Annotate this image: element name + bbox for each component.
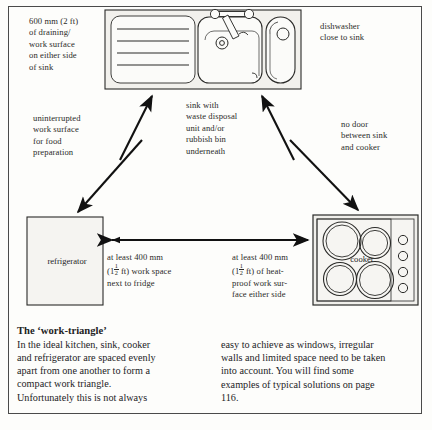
callout-line: between sink (341, 130, 425, 141)
article-line: walls and limited space need to be taken (221, 351, 421, 364)
refrigerator-label: refrigerator (37, 256, 97, 266)
callout-line: at least 400 mm (107, 252, 201, 263)
callout-line: face either side (232, 289, 324, 300)
callout-line: of draining/ (29, 27, 103, 38)
callout-line: sink with (186, 100, 278, 111)
arrow-fridge-to-cooker-span (112, 237, 308, 244)
callout-line: waste disposal (186, 111, 278, 122)
callout-line: unit and/or (186, 123, 278, 134)
callout-frac-pre: (1 (107, 266, 114, 276)
callout-line: (112 ft) of heat- (232, 263, 324, 277)
callout-line: next to fridge (107, 278, 201, 289)
dishwasher-drawer (266, 17, 295, 83)
callout-line: underneath (186, 146, 278, 157)
article-line: examples of typical solutions on page (221, 378, 421, 391)
draining-board (111, 16, 195, 83)
article-left-column: The ‘work-triangle’ In the ideal kitchen… (17, 324, 213, 404)
article-line: 116. (221, 391, 421, 404)
article-right-column: easy to achieve as windows, irregular wa… (221, 338, 421, 404)
callout-line: dishwasher (320, 21, 415, 32)
callout-line: uninterrupted (33, 113, 119, 124)
cooker-label: cooker (336, 254, 388, 264)
callout-draining-surface: 600 mm (2 ft) of draining/ work surface … (29, 16, 103, 73)
article-line: into account. You will find some (221, 364, 421, 377)
callout-frac-pre: (1 (232, 266, 239, 276)
article-line: easy to achieve as windows, irregular (221, 338, 421, 351)
callout-no-door: no door between sink and cooker (341, 119, 425, 153)
callout-dishwasher: dishwasher close to sink (320, 21, 415, 44)
article-line: apart from one another to form a (17, 364, 213, 377)
article-line: and refrigerator are spaced evenly (17, 351, 213, 364)
callout-fridge-workspace: at least 400 mm (112 ft) work space next… (107, 252, 201, 289)
figure-page: 600 mm (2 ft) of draining/ work surface … (0, 0, 432, 430)
callout-uninterrupted-worksurface: uninterrupted work surface for food prep… (33, 113, 119, 159)
article-heading: The ‘work-triangle’ (17, 324, 213, 337)
callout-line: of sink (29, 62, 103, 73)
callout-cooker-workspace: at least 400 mm (112 ft) of heat- proof … (232, 252, 324, 301)
callout-line: close to sink (320, 32, 415, 43)
callout-sink-waste-disposal: sink with waste disposal unit and/or rub… (186, 100, 278, 157)
callout-line: (112 ft) work space (107, 263, 201, 277)
callout-line: work surface (33, 124, 119, 135)
callout-line: for food (33, 136, 119, 147)
arrow-worksurface-to-sink (120, 96, 152, 160)
callout-line: preparation (33, 147, 119, 158)
callout-line: rubbish bin (186, 134, 278, 145)
callout-line: 600 mm (2 ft) (29, 16, 103, 27)
callout-line: no door (341, 119, 425, 130)
callout-frac-post: ft) of heat- (244, 266, 284, 276)
article-line: In the ideal kitchen, sink, cooker (17, 338, 213, 351)
article-line: Unfortunately this is not always (17, 391, 213, 404)
callout-line: at least 400 mm (232, 252, 324, 263)
callout-line: on either side (29, 50, 103, 61)
callout-line: and cooker (341, 142, 425, 153)
article-line: compact work triangle. (17, 377, 213, 390)
callout-line: work surface (29, 39, 103, 50)
sink-unit-diagram (105, 9, 301, 89)
callout-line: proof work sur- (232, 278, 324, 289)
callout-frac-post: ft) work space (119, 266, 172, 276)
